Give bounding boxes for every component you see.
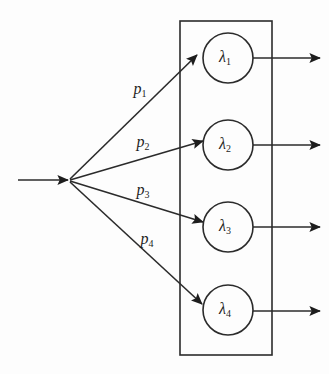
node-circles xyxy=(203,33,253,335)
node-label-lambda-3: λ3 xyxy=(218,217,231,237)
system-boundary-box xyxy=(180,21,272,355)
edge-label-p2: p2 xyxy=(136,133,150,153)
edge-label-p1: p1 xyxy=(133,80,147,100)
diagram-canvas: λ1 λ2 λ3 λ4 p1 p2 p3 p4 xyxy=(0,0,329,374)
node-label-lambda-2: λ2 xyxy=(218,135,231,155)
edge-labels: p1 p2 p3 p4 xyxy=(133,80,154,250)
output-edges xyxy=(253,58,320,311)
edge-label-p3: p3 xyxy=(136,181,150,201)
node-label-lambda-1: λ1 xyxy=(218,48,231,68)
node-labels: λ1 λ2 λ3 λ4 xyxy=(218,48,231,320)
branch-arrow-p1 xyxy=(70,55,197,179)
branch-arrow-p4 xyxy=(70,182,202,304)
diagram-svg: λ1 λ2 λ3 λ4 p1 p2 p3 p4 xyxy=(0,0,329,374)
edge-label-p4: p4 xyxy=(140,230,154,250)
node-label-lambda-4: λ4 xyxy=(218,300,231,320)
